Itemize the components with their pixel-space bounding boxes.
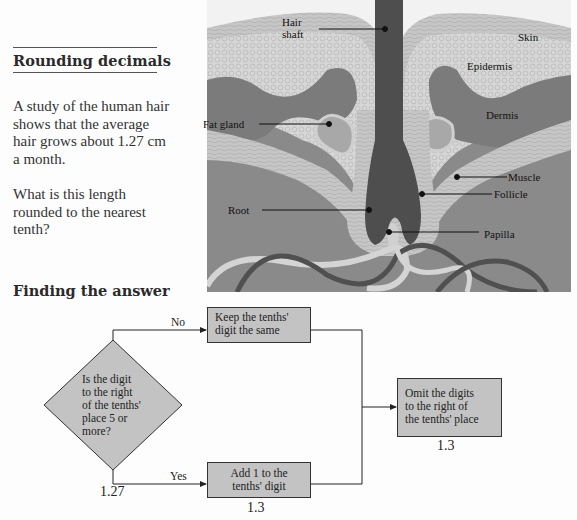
add-one-box: Add 1 to the tenths' digit	[207, 462, 311, 498]
text-line: A study of the human hair	[13, 98, 203, 116]
text-line: tenth?	[13, 221, 203, 239]
label-epidermis: Epidermis	[467, 60, 512, 72]
yes-label: Yes	[170, 470, 187, 482]
text-line: a month.	[13, 151, 203, 169]
omit-value: 1.3	[437, 438, 455, 454]
keep-digit-box: Keep the tenths' digit the same	[207, 307, 311, 343]
label-muscle: Muscle	[508, 171, 540, 183]
lesson-title-rule: Rounding decimals	[13, 47, 157, 73]
hair-follicle-diagram	[207, 0, 571, 292]
label-root: Root	[228, 204, 249, 216]
no-label: No	[171, 316, 185, 328]
label-dermis: Dermis	[486, 109, 518, 121]
problem-paragraph: A study of the human hair shows that the…	[13, 98, 203, 168]
decision-text: Is the digit to the right of the tenths'…	[82, 373, 141, 438]
label-papilla: Papilla	[484, 228, 515, 240]
label-follicle: Follicle	[494, 188, 528, 200]
omit-digits-box: Omit the digits to the right of the tent…	[397, 378, 502, 437]
add-value: 1.3	[247, 500, 265, 516]
text-line: shows that the average	[13, 116, 203, 134]
question-paragraph: What is this length rounded to the neare…	[13, 186, 203, 239]
lesson-title: Rounding decimals	[13, 52, 157, 69]
label-fat-gland: Fat gland	[203, 118, 244, 130]
text-line: rounded to the nearest	[13, 204, 203, 222]
text-line: What is this length	[13, 186, 203, 204]
text-line: hair grows about 1.27 cm	[13, 133, 203, 151]
hair-follicle-illustration: Hair shaft Skin Epidermis Dermis Fat gla…	[207, 0, 571, 292]
label-skin: Skin	[518, 31, 538, 43]
start-value: 1.27	[100, 484, 125, 500]
label-hair-shaft: Hair shaft	[282, 16, 303, 40]
